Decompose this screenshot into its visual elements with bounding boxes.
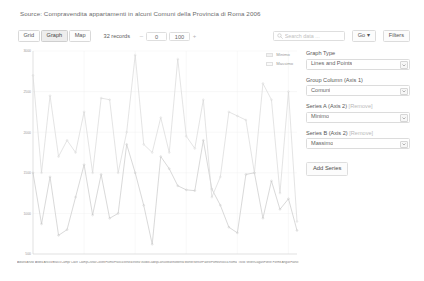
x-axis-label: Palestrina [202, 261, 211, 275]
group-column-select[interactable]: Comuni [306, 85, 410, 96]
x-axis-label: Campagnano di Roma [61, 261, 70, 275]
series-b-select[interactable]: Massimo [306, 138, 410, 149]
svg-text:2500: 2500 [23, 90, 31, 94]
go-button[interactable]: Go ▾ [352, 30, 376, 43]
chevron-down-icon[interactable] [400, 61, 408, 69]
x-axis-label: Fiano Romano [290, 261, 299, 275]
decrement-icon[interactable]: – [138, 33, 145, 39]
legend-swatch-massimo [266, 62, 273, 66]
group-column-value: Comuni [307, 88, 330, 94]
svg-text:1000: 1000 [23, 212, 31, 216]
series-a-value: Minimo [307, 114, 329, 120]
legend-label-minimo: Minimo [276, 52, 290, 57]
x-axis-label: Ciampino [79, 261, 88, 275]
x-axis-label: Anguillara Sabazia [281, 261, 290, 275]
group-column-label: Group Column (Axis 1) [306, 77, 410, 83]
record-count-label: 32 records [104, 33, 130, 39]
x-axis-label: Marino [167, 261, 176, 275]
x-axis-label: Anzio [26, 261, 35, 275]
add-series-button[interactable]: Add Series [306, 162, 348, 177]
x-axis-label: Mentana [176, 261, 185, 275]
graph-type-label: Graph Type [306, 50, 410, 56]
x-axis-label: Rocca di Papa [220, 261, 229, 275]
x-axis-label: Grottaferrata [132, 261, 141, 275]
view-tab-map[interactable]: Map [69, 30, 91, 43]
x-axis-label: Roma [229, 261, 238, 275]
series-a-label-text: Series A (Axis 2) [306, 103, 347, 109]
view-tab-grid[interactable]: Grid [18, 30, 40, 43]
series-a-select[interactable]: Minimo [306, 112, 410, 123]
x-axis-label: Guidonia [140, 261, 149, 275]
x-axis-label: Zagarolo [255, 261, 264, 275]
legend-item-minimo[interactable]: Minimo [266, 52, 293, 57]
x-axis-label: Albano Laziale [17, 261, 26, 275]
series-b-remove-link[interactable]: [Remove] [349, 130, 373, 136]
x-axis-labels: Albano LazialeAnzioArdeaAricciaBracciano… [17, 261, 299, 275]
increment-icon[interactable]: + [191, 33, 198, 39]
svg-text:3000: 3000 [23, 49, 31, 53]
chevron-down-icon[interactable] [400, 141, 408, 149]
svg-text:500: 500 [25, 252, 31, 256]
legend-swatch-minimo [266, 53, 273, 57]
x-axis-label: Cave [70, 261, 79, 275]
x-axis-label: Pomezia [211, 261, 220, 275]
search-box[interactable] [273, 31, 345, 41]
series-a-remove-link[interactable]: [Remove] [349, 103, 373, 109]
view-switcher: Grid Graph Map [18, 30, 93, 43]
x-axis-label: Ariccia [43, 261, 52, 275]
x-axis-label: Formello [273, 261, 282, 275]
x-axis-label: Tivoli [237, 261, 246, 275]
line-chart: 50010001500200025003000 [17, 48, 299, 260]
x-axis-label: Bracciano [52, 261, 61, 275]
graph-type-select[interactable]: Lines and Points [306, 59, 410, 70]
x-axis-label: Fiumicino [105, 261, 114, 275]
graph-config-panel: Graph Type Lines and Points Group Column… [306, 50, 410, 176]
chart-container: 50010001500200025003000 Minimo Massimo [17, 48, 299, 260]
x-axis-label: Monterotondo [184, 261, 193, 275]
x-axis-label: Ardea [35, 261, 44, 275]
pagination-controls: – 0 100 + [138, 32, 198, 41]
view-tab-graph[interactable]: Graph [41, 30, 68, 43]
graph-type-value: Lines and Points [307, 61, 352, 67]
chevron-down-icon[interactable] [400, 114, 408, 122]
chevron-down-icon[interactable] [400, 88, 408, 96]
x-axis-label: Velletri [246, 261, 255, 275]
series-b-value: Massimo [307, 141, 333, 147]
filters-button[interactable]: Filters [383, 30, 410, 43]
series-a-label: Series A (Axis 2) [Remove] [306, 103, 410, 109]
x-axis-label: Frascati [114, 261, 123, 275]
legend-item-massimo[interactable]: Massimo [266, 61, 293, 66]
svg-text:2000: 2000 [23, 131, 31, 135]
search-icon [277, 33, 283, 39]
search-input[interactable] [285, 33, 341, 39]
legend-label-massimo: Massimo [276, 61, 293, 66]
toolbar: Grid Graph Map 32 records – 0 100 + Go ▾… [18, 29, 410, 43]
x-axis-label: Lanuvio [158, 261, 167, 275]
x-axis-label: Genzano di Roma [123, 261, 132, 275]
svg-text:1500: 1500 [23, 171, 31, 175]
x-axis-label: Fonte Nuova [264, 261, 273, 275]
x-axis-label: Colleferro [96, 261, 105, 275]
graph-explorer-page: Source: Compravendita appartamenti in al… [0, 0, 424, 281]
series-b-label: Series B (Axis 2) [Remove] [306, 130, 410, 136]
series-b-label-text: Series B (Axis 2) [306, 130, 348, 136]
x-axis-label: Civitavecchia [88, 261, 97, 275]
offset-input[interactable]: 0 [146, 32, 167, 41]
x-axis-label: Ladispoli [149, 261, 158, 275]
limit-input[interactable]: 100 [169, 32, 190, 41]
x-axis-label: Nettuno [193, 261, 202, 275]
chart-legend: Minimo Massimo [266, 52, 293, 70]
page-title: Source: Compravendita appartamenti in al… [20, 10, 261, 17]
